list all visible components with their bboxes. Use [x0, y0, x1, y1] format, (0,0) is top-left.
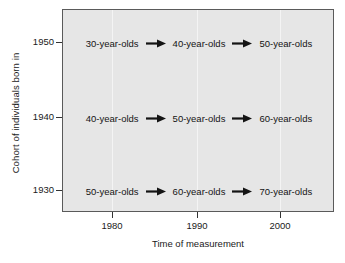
arrow-right-icon — [146, 187, 166, 196]
x-tick-label-2000: 2000 — [250, 220, 310, 231]
cohort-row-1950: 30-year-olds 40-year-olds 50-year-olds — [63, 36, 334, 50]
y-tick-label-1940: 1940 — [0, 111, 54, 122]
x-tick-1990 — [197, 212, 198, 218]
plot-panel: 30-year-olds 40-year-olds 50-year-olds 4… — [62, 9, 334, 212]
cohort-cell-1950-2000: 50-year-olds — [259, 38, 312, 49]
cohort-cell-1930-2000: 70-year-olds — [259, 186, 312, 197]
cohort-cell-1930-1980: 50-year-olds — [86, 186, 139, 197]
cohort-row-1940: 40-year-olds 50-year-olds 60-year-olds — [63, 111, 334, 125]
arrow-right-icon — [232, 114, 252, 123]
cohort-cell-1940-1980: 40-year-olds — [86, 113, 139, 124]
cohort-cell-1950-1990: 40-year-olds — [173, 38, 226, 49]
cohort-cell-1950-1980: 30-year-olds — [86, 38, 139, 49]
arrow-right-icon — [146, 39, 166, 48]
x-tick-1980 — [112, 212, 113, 218]
cohort-cell-1940-1990: 50-year-olds — [173, 113, 226, 124]
y-tick-label-1950: 1950 — [0, 36, 54, 47]
cohort-cell-1940-2000: 60-year-olds — [259, 113, 312, 124]
y-tick-1930 — [56, 190, 62, 191]
x-axis-title: Time of measurement — [62, 238, 334, 249]
y-tick-1940 — [56, 117, 62, 118]
arrow-right-icon — [232, 187, 252, 196]
y-tick-label-1930: 1930 — [0, 184, 54, 195]
y-tick-1950 — [56, 42, 62, 43]
x-tick-2000 — [280, 212, 281, 218]
x-tick-label-1990: 1990 — [167, 220, 227, 231]
arrow-right-icon — [232, 39, 252, 48]
cohort-row-1930: 50-year-olds 60-year-olds 70-year-olds — [63, 184, 334, 198]
arrow-right-icon — [146, 114, 166, 123]
cohort-sequential-design-chart: Cohort of individuals born in 30-year-ol… — [0, 0, 345, 263]
x-tick-label-1980: 1980 — [82, 220, 142, 231]
cohort-cell-1930-1990: 60-year-olds — [173, 186, 226, 197]
